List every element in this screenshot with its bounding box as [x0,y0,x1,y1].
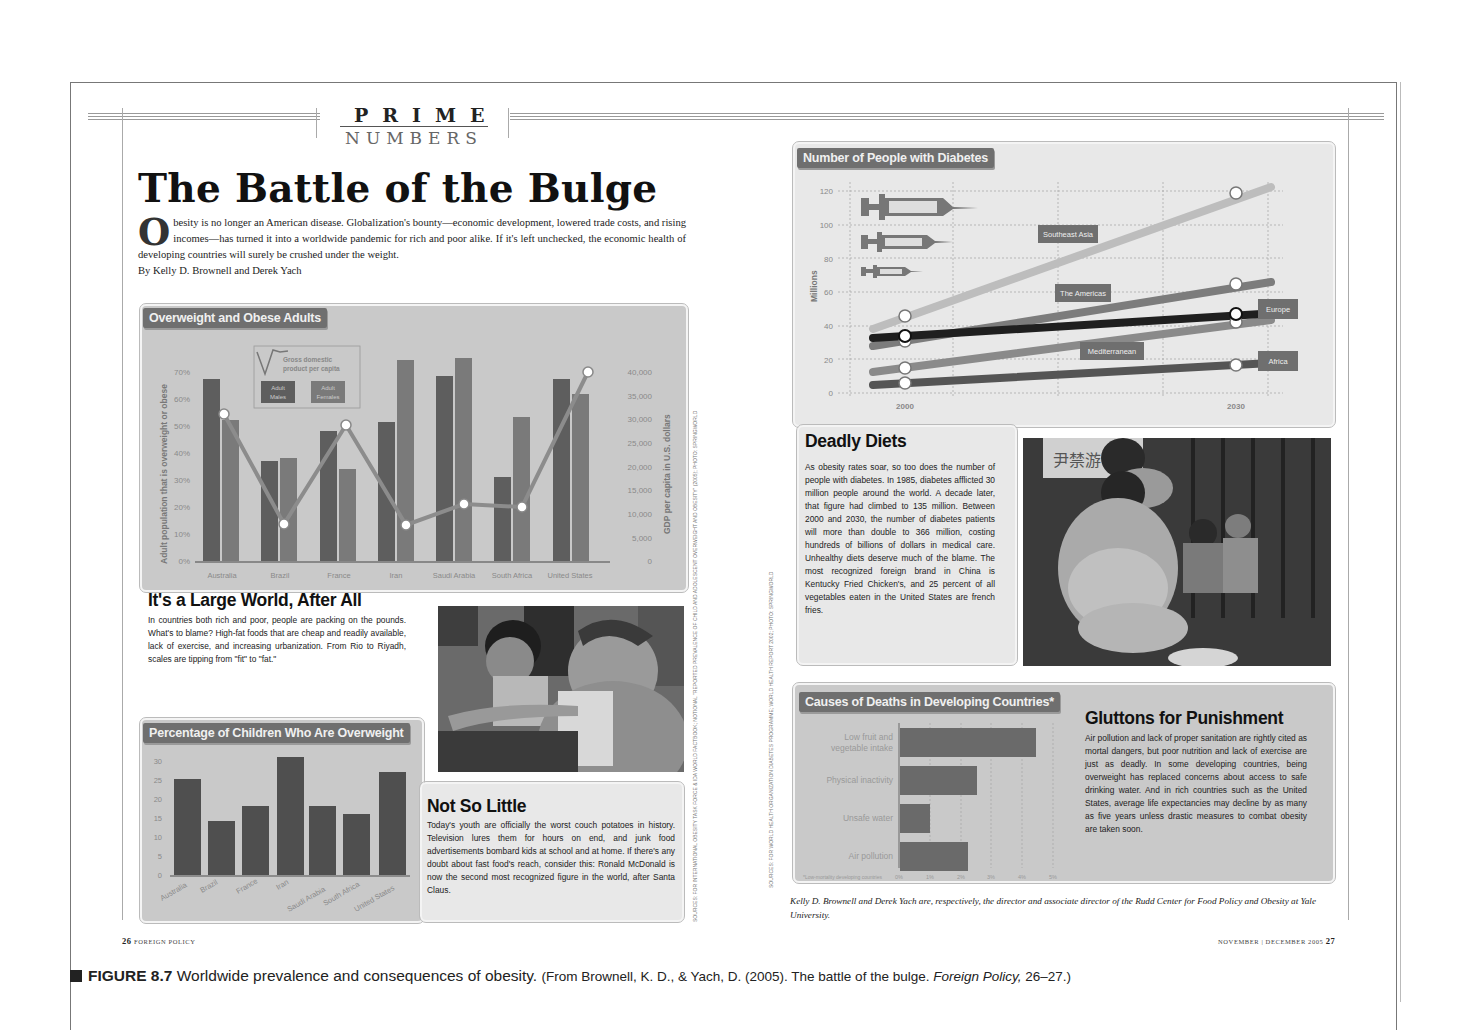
svg-text:5,000: 5,000 [632,534,653,543]
svg-text:30%: 30% [174,476,190,485]
svg-text:Adult: Adult [271,385,285,391]
figure-caption: FIGURE 8.7 Worldwide prevalence and cons… [70,963,1397,989]
photo-beach-family-image: 尹禁游 [1023,438,1331,666]
svg-text:5: 5 [158,852,162,861]
svg-text:10,000: 10,000 [628,510,653,519]
svg-text:France: France [235,876,260,895]
x-axis-ticks: 0% 1% 2% 3% 4% 5% [895,874,1057,880]
svg-text:30: 30 [154,757,162,766]
page-number-left: 26 [122,936,132,946]
svg-text:120: 120 [820,187,834,196]
large-world-heading: It's a Large World, After All [148,590,362,611]
y-axis-title: Millions [809,270,819,302]
not-so-little-body: Today's youth are officially the worst c… [427,819,675,897]
caption-bullet-icon [70,970,82,982]
masthead-divider-left [316,108,317,138]
svg-text:0: 0 [158,871,162,880]
left-axis-title: Adult population that is overweight or o… [159,384,169,564]
svg-text:2000: 2000 [896,402,914,411]
svg-text:0%: 0% [895,874,903,880]
caption-citation-b: 26–27.) [1021,969,1071,984]
svg-text:Australia: Australia [207,571,237,580]
sources-left: SOURCES: FOR INTERNATIONAL OBESITY TASK … [692,411,698,922]
svg-text:0: 0 [648,557,653,566]
article-lede: Obesity is no longer an American disease… [138,215,686,279]
figure-number: FIGURE 8.7 [88,967,172,984]
svg-text:10: 10 [154,833,162,842]
svg-text:20: 20 [824,356,833,365]
svg-text:United States: United States [547,571,592,580]
svg-text:Mediterranean: Mediterranean [1088,347,1136,356]
svg-text:2030: 2030 [1227,402,1245,411]
masthead-rule-right [510,113,1384,120]
drop-cap: O [138,217,170,247]
author-bio: Kelly D. Brownell and Derek Yach are, re… [790,894,1335,922]
caption-text: Worldwide prevalence and consequences of… [172,967,541,984]
x-axis-labels: Australia Brazil France Iran Saudi Arabi… [159,876,397,913]
svg-text:60: 60 [824,288,833,297]
children-bars [174,757,406,875]
photo-children-fast-food [438,606,684,772]
svg-text:The Americas: The Americas [1060,289,1106,298]
svg-text:Physical inactivity: Physical inactivity [826,775,893,785]
y-axis-ticks: 0 20 40 60 80 100 120 [820,187,834,398]
svg-text:0: 0 [829,389,834,398]
deadly-diets-body: As obesity rates soar, so too does the n… [805,461,995,617]
svg-text:60%: 60% [174,395,190,404]
category-labels: Low fruit and vegetable intake Physical … [826,732,893,861]
causes-of-deaths-chart: Low fruit and vegetable intake Physical … [793,683,1063,883]
svg-text:France: France [327,571,350,580]
not-so-little-heading: Not So Little [427,796,526,817]
page-number-right: 27 [1326,936,1336,946]
left-axis-ticks: 0% 10% 20% 30% 40% 50% 60% 70% [174,368,190,566]
svg-text:Males: Males [270,394,286,400]
large-world-body: In countries both rich and poor, people … [148,614,406,666]
svg-text:Iran: Iran [275,877,291,891]
svg-text:10%: 10% [174,530,190,539]
svg-text:25,000: 25,000 [628,439,653,448]
photo-beach-family: 尹禁游 [1023,438,1331,666]
svg-text:70%: 70% [174,368,190,377]
x-axis-ticks: 2000 2030 [896,402,1245,411]
svg-text:3%: 3% [987,874,995,880]
svg-text:40%: 40% [174,449,190,458]
syringe-icons [861,194,978,278]
photo-children-fast-food-image [438,606,684,772]
gluttons-heading: Gluttons for Punishment [1085,708,1283,729]
svg-text:Africa: Africa [1268,357,1288,366]
svg-text:40,000: 40,000 [628,368,653,377]
svg-text:Europe: Europe [1266,305,1290,314]
page-edge-line [1400,82,1401,1002]
sources-right: SOURCES: FOR WORLD HEALTH ORGANIZATION D… [768,572,774,888]
svg-text:Adult: Adult [321,385,335,391]
svg-text:20,000: 20,000 [628,463,653,472]
svg-text:vegetable intake: vegetable intake [831,743,893,753]
svg-text:Air pollution: Air pollution [849,851,894,861]
gluttons-body: Air pollution and lack of proper sanitat… [1085,732,1307,836]
svg-text:Unsafe water: Unsafe water [843,813,893,823]
svg-text:35,000: 35,000 [628,392,653,401]
svg-text:Brazil: Brazil [271,571,290,580]
children-overweight-chart: 0 5 10 15 20 25 30 Australia Brazil Fran… [140,718,422,923]
cause-bars [900,728,1036,871]
y-axis-ticks: 0 5 10 15 20 25 30 [154,757,162,880]
svg-text:Australia: Australia [159,880,189,903]
svg-text:4%: 4% [1018,874,1026,880]
svg-text:100: 100 [820,221,834,230]
svg-text:50%: 50% [174,422,190,431]
section-label-prime: PRIME [340,104,488,127]
svg-text:5%: 5% [1049,874,1057,880]
svg-text:Low fruit and: Low fruit and [844,732,893,742]
svg-text:Saudi Arabia: Saudi Arabia [433,571,476,580]
caption-journal: Foreign Policy, [933,969,1021,984]
caption-citation-a: (From Brownell, K. D., & Yach, D. (2005)… [542,969,934,984]
svg-text:1%: 1% [926,874,934,880]
svg-text:20: 20 [154,795,162,804]
masthead-divider-right [508,108,509,138]
svg-text:25: 25 [154,776,162,785]
svg-text:Southeast Asia: Southeast Asia [1043,230,1094,239]
publication-name: FOREIGN POLICY [134,938,196,945]
svg-text:Females: Females [316,394,339,400]
x-axis-labels: Australia Brazil France Iran Saudi Arabi… [207,571,592,580]
svg-text:15,000: 15,000 [628,486,653,495]
